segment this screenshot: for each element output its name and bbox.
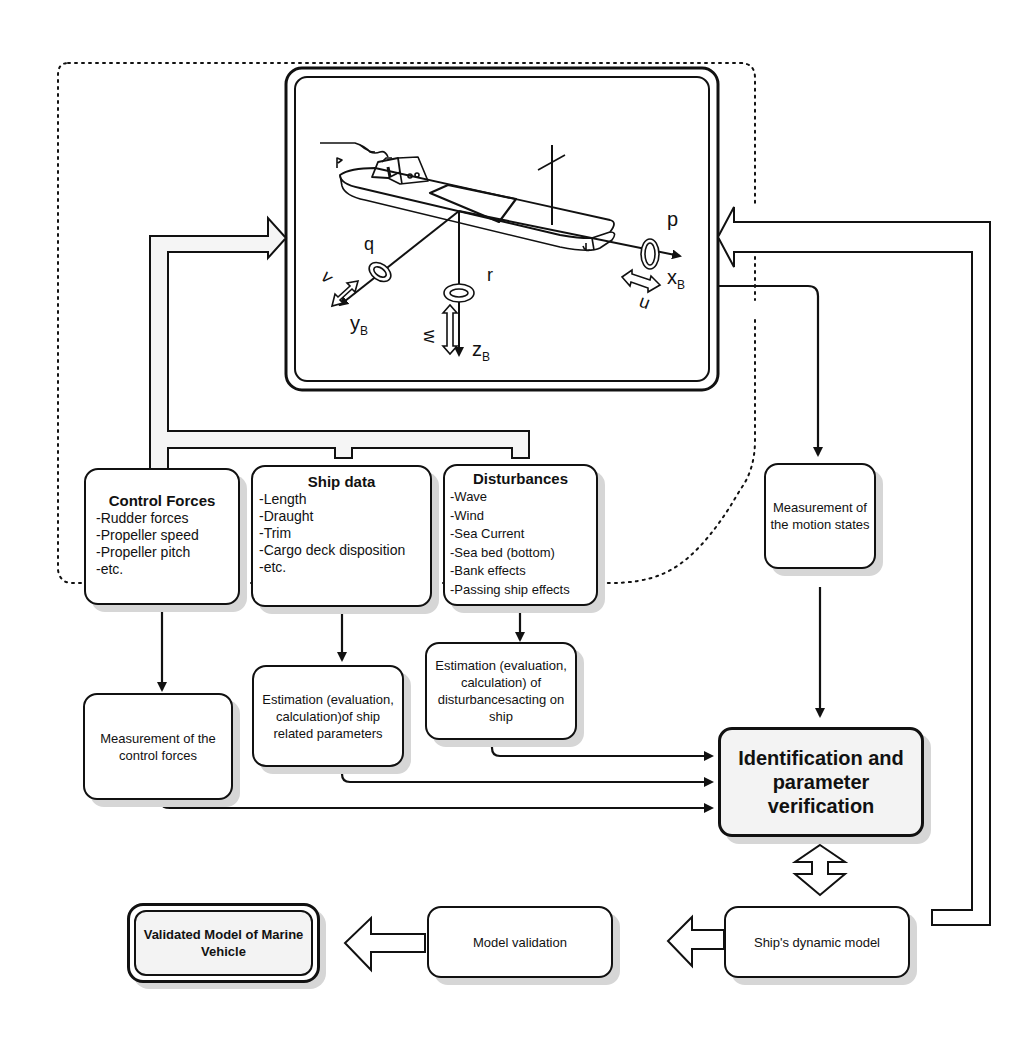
list-item: Propeller speed <box>96 527 238 544</box>
list-item: Passing ship effects <box>450 581 596 600</box>
validated-model-text: Validated Model of Marine Vehicle <box>134 910 313 976</box>
label-r: r <box>487 265 493 285</box>
list-item: Wind <box>450 507 596 526</box>
disturbances-box: Disturbances Wave Wind Sea Current Sea b… <box>443 464 598 606</box>
measurement-control-text: Measurement of the control forces <box>89 730 227 764</box>
control-measurement-to-identification-arrow <box>162 800 712 808</box>
list-item: Rudder forces <box>96 510 238 527</box>
measurement-motion-text: Measurement of the motion states <box>770 499 870 533</box>
measurement-control-box: Measurement of the control forces <box>83 693 233 800</box>
label-q: q <box>364 234 374 254</box>
list-item: Sea Current <box>450 525 596 544</box>
identification-model-double-arrow <box>795 845 845 895</box>
control-forces-box: Control Forces Rudder forces Propeller s… <box>84 468 240 605</box>
list-item: etc. <box>96 561 238 578</box>
control-forces-list: Rudder forces Propeller speed Propeller … <box>96 510 238 578</box>
list-item: Draught <box>259 508 430 525</box>
estimation-disturbances-text: Estimation (evaluation, calculation) of … <box>431 657 571 725</box>
list-item: etc. <box>259 559 430 576</box>
list-item: Bank effects <box>450 562 596 581</box>
disturbances-title: Disturbances <box>450 470 596 488</box>
disturbances-list: Wave Wind Sea Current Sea bed (bottom) B… <box>450 488 596 599</box>
model-validation-box: Model validation <box>427 906 613 978</box>
validation-to-validated-hollow-arrow <box>345 918 425 970</box>
estimation-ship-text: Estimation (evaluation, calculation)of s… <box>258 691 398 742</box>
ship-data-title: Ship data <box>259 473 430 491</box>
control-forces-title: Control Forces <box>96 492 238 510</box>
model-validation-text: Model validation <box>473 934 567 951</box>
dynamic-model-box: Ship's dynamic model <box>724 906 910 978</box>
estimation-disturbances-box: Estimation (evaluation, calculation) of … <box>425 642 577 740</box>
measurement-motion-box: Measurement of the motion states <box>764 463 876 569</box>
estimation-ship-box: Estimation (evaluation, calculation)of s… <box>252 665 404 767</box>
validated-model-box: Validated Model of Marine Vehicle <box>127 903 320 983</box>
list-item: Sea bed (bottom) <box>450 544 596 563</box>
identification-box: Identification and parameter verificatio… <box>718 727 924 837</box>
dynamic-model-text: Ship's dynamic model <box>754 934 880 951</box>
label-w: w <box>420 329 440 344</box>
list-item: Trim <box>259 525 430 542</box>
list-item: Propeller pitch <box>96 544 238 561</box>
disturbance-estimate-to-identification-arrow <box>492 740 712 756</box>
ship-estimate-to-identification-arrow <box>342 765 712 782</box>
motion-output-arrow <box>718 286 818 455</box>
label-p: p <box>667 208 678 230</box>
list-item: Length <box>259 491 430 508</box>
identification-text: Identification and parameter verificatio… <box>729 746 913 818</box>
list-item: Wave <box>450 488 596 507</box>
list-item: Cargo deck disposition <box>259 542 430 559</box>
ship-data-list: Length Draught Trim Cargo deck dispositi… <box>259 491 430 576</box>
ship-panel-inner-frame <box>295 77 709 381</box>
model-to-validation-hollow-arrow <box>668 917 724 966</box>
ship-data-box: Ship data Length Draught Trim Cargo deck… <box>251 465 432 607</box>
